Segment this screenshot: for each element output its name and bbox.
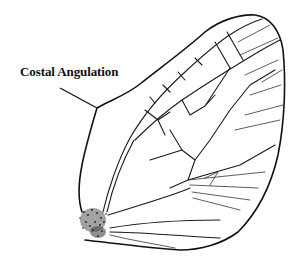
anal-vein-2 [110, 220, 220, 238]
vein-fork [205, 172, 218, 185]
leader-line [60, 88, 97, 108]
discal-cell-veins [145, 68, 230, 135]
medial-veins [150, 70, 275, 160]
anal-vein-1 [108, 188, 190, 215]
cubital-veins [170, 145, 275, 188]
wing-base-stipple [79, 208, 107, 238]
wing-drawing [0, 0, 306, 267]
costal-vein [103, 19, 262, 212]
wing-diagram: Costal Angulation [0, 0, 306, 267]
apical-veins [235, 25, 283, 130]
outer-veins [188, 172, 265, 210]
subcostal-vein [107, 140, 134, 212]
costal-angulation-label: Costal Angulation [20, 64, 118, 80]
